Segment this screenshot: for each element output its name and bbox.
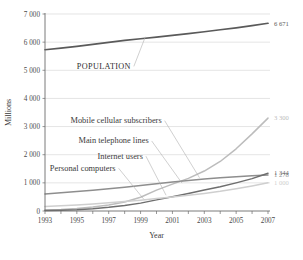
y-tick-label-4000: 4 000: [24, 95, 41, 103]
end-value-label-3: 1 344: [274, 169, 290, 176]
x-tick-label-1995: 1995: [70, 217, 85, 225]
y-tick-label-0: 0: [36, 208, 40, 216]
series-line-0: [45, 23, 268, 49]
annotation-label-2: Main telephone lines: [78, 136, 148, 145]
x-tick-label-2001: 2001: [165, 217, 180, 225]
x-tick-label-2007: 2007: [261, 217, 276, 225]
end-value-label-0: 6 671: [274, 20, 289, 27]
end-value-label-1: 3 300: [274, 114, 290, 121]
y-tick-label-2000: 2 000: [24, 151, 41, 159]
end-value-label-4: 1 000: [274, 179, 290, 186]
annotation-label-4: Personal computers: [50, 164, 116, 173]
annotation-label-0: POPULATION: [77, 62, 131, 71]
x-tick-label-1999: 1999: [133, 217, 148, 225]
y-axis-title: Millions: [4, 99, 13, 126]
y-tick-label-1000: 1 000: [24, 179, 41, 187]
y-tick-label-7000: 7 000: [24, 11, 41, 19]
annotation-label-1: Mobile cellular subscribers: [70, 116, 161, 125]
x-tick-label-1993: 1993: [38, 217, 53, 225]
annotation-leader-3: [146, 156, 166, 195]
chart-canvas: 01 0002 0003 0004 0005 0006 0007 0001993…: [0, 0, 303, 260]
x-tick-label-1997: 1997: [102, 217, 117, 225]
annotation-label-3: Internet users: [98, 152, 143, 161]
annotation-leader-4: [119, 168, 144, 199]
y-tick-label-5000: 5 000: [24, 67, 41, 75]
series-line-4: [45, 183, 268, 207]
y-tick-label-3000: 3 000: [24, 123, 41, 131]
x-tick-label-2005: 2005: [229, 217, 244, 225]
series-line-2: [45, 175, 268, 194]
y-tick-label-6000: 6 000: [24, 39, 41, 47]
annotation-leader-1: [165, 121, 200, 178]
population-ict-line-chart: 01 0002 0003 0004 0005 0006 0007 0001993…: [0, 0, 303, 260]
x-tick-label-2003: 2003: [197, 217, 212, 225]
x-axis-title: Year: [149, 231, 164, 240]
annotation-leader-0: [134, 37, 145, 67]
